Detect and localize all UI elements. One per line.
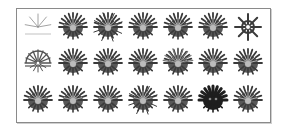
dense-burst-icon	[56, 10, 90, 44]
dense-burst-icon	[91, 46, 125, 80]
dense-burst-icon	[161, 10, 195, 44]
dense-burst-icon	[231, 46, 265, 80]
dense-burst-icon	[161, 46, 195, 80]
dense-burst-icon	[91, 10, 125, 44]
open-wheel-icon	[21, 46, 55, 80]
dense-burst-icon	[126, 46, 160, 80]
open-star-icon	[231, 10, 265, 44]
dense-burst-icon	[126, 83, 160, 117]
dense-burst-icon	[21, 83, 55, 117]
dense-burst-icon	[161, 83, 195, 117]
dense-burst-icon	[56, 46, 90, 80]
dense-burst-icon	[231, 83, 265, 117]
dense-burst-icon	[91, 83, 125, 117]
dense-burst-icon	[56, 83, 90, 117]
solid-burst-icon	[196, 83, 230, 117]
dense-burst-icon	[126, 10, 160, 44]
dense-burst-icon	[196, 46, 230, 80]
sparse-fan-icon	[21, 10, 55, 44]
dense-burst-icon	[196, 10, 230, 44]
